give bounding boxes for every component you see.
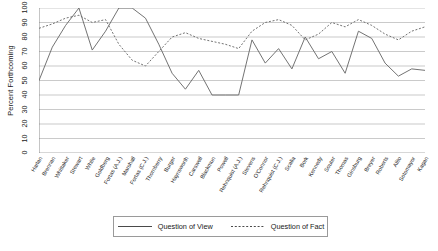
chart-figure: Percent Forthcoming 01020304050607080901… <box>0 0 438 251</box>
y-tick-90: 90 <box>15 18 35 28</box>
x-axis-tick-labels: HarlanBrennanWhittakerStewartWhiteGoldbe… <box>39 156 425 214</box>
y-tick-60: 60 <box>15 61 35 71</box>
y-tick-30: 30 <box>15 105 35 115</box>
plot-svg <box>39 8 425 153</box>
y-tick-10: 10 <box>15 134 35 144</box>
y-tick-80: 80 <box>15 32 35 42</box>
legend-label-question-of-view: Question of View <box>158 222 213 231</box>
y-tick-label: 80 <box>21 33 28 41</box>
y-tick-label: 30 <box>21 105 28 113</box>
y-tick-label: 50 <box>21 76 28 84</box>
y-tick-label: 90 <box>21 18 28 26</box>
y-axis-title-text: Percent Forthcoming <box>6 45 15 116</box>
y-tick-label: 40 <box>21 91 28 99</box>
legend-swatch-dotted <box>230 223 266 230</box>
series-line-2 <box>39 15 425 66</box>
legend-label-question-of-fact: Question of Fact <box>271 222 325 231</box>
y-tick-label: 100 <box>21 2 28 14</box>
y-tick-0: 0 <box>15 148 35 158</box>
y-axis-tick-labels: 0102030405060708090100 <box>17 0 37 160</box>
legend-swatch-solid <box>117 223 153 230</box>
y-tick-label: 0 <box>21 151 28 155</box>
y-tick-50: 50 <box>15 76 35 86</box>
y-tick-70: 70 <box>15 47 35 57</box>
y-tick-100: 100 <box>15 3 35 13</box>
y-tick-label: 20 <box>21 120 28 128</box>
y-tick-label: 10 <box>21 134 28 142</box>
y-tick-label: 70 <box>21 47 28 55</box>
legend-item-question-of-fact: Question of Fact <box>230 222 325 231</box>
chart-legend: Question of View Question of Fact <box>113 216 328 237</box>
y-tick-40: 40 <box>15 90 35 100</box>
y-tick-20: 20 <box>15 119 35 129</box>
y-tick-label: 60 <box>21 62 28 70</box>
legend-item-question-of-view: Question of View <box>117 222 213 231</box>
plot-area <box>39 8 425 153</box>
